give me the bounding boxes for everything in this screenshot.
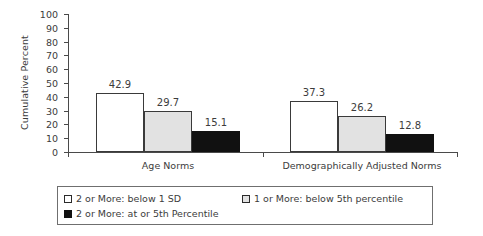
y-tick-label-10: 10: [32, 133, 58, 144]
bar-value-age-norms-series-1: 42.9: [109, 79, 131, 90]
legend-item-1-or-more-below-5th-percentile: 1 or More: below 5th percentile: [242, 193, 403, 204]
legend-swatch-black-square-icon: [64, 210, 72, 218]
y-tick-label-40: 40: [32, 91, 58, 102]
y-tick-label-20: 20: [32, 119, 58, 130]
y-tick-label-100: 100: [32, 9, 58, 20]
x-tick-middle: [263, 152, 264, 157]
y-tick-60: 60: [64, 69, 68, 70]
legend-label-3: 2 or More: at or 5th Percentile: [76, 208, 219, 219]
legend-item-2-or-more-below-1-sd: 2 or More: below 1 SD: [64, 193, 181, 204]
legend-row-2: 2 or More: at or 5th Percentile: [64, 206, 432, 221]
y-tick-100: 100: [64, 14, 68, 15]
bar-demographically-adjusted-norms-2-or-more-below-1-sd: [290, 101, 338, 153]
bar-demographically-adjusted-norms-1-or-more-below-5th-percentile: [338, 116, 386, 152]
y-tick-70: 70: [64, 55, 68, 56]
category-label-demographically-adjusted-norms: Demographically Adjusted Norms: [282, 160, 441, 171]
legend: 2 or More: below 1 SD 1 or More: below 5…: [57, 186, 433, 225]
y-tick-label-80: 80: [32, 36, 58, 47]
y-axis-line: [68, 14, 69, 153]
x-tick-start: [68, 152, 69, 157]
bar-value-age-norms-series-3: 15.1: [205, 117, 227, 128]
y-tick-50: 50: [64, 83, 68, 84]
legend-label-2: 1 or More: below 5th percentile: [254, 193, 403, 204]
y-tick-label-30: 30: [32, 105, 58, 116]
y-tick-90: 90: [64, 28, 68, 29]
y-tick-10: 10: [64, 138, 68, 139]
plot-area: 100 90 80 70 60 50 40 30 20 10 0 42.9 29…: [68, 14, 458, 152]
y-tick-label-0: 0: [32, 147, 58, 158]
y-tick-20: 20: [64, 124, 68, 125]
bar-value-demographically-adjusted-norms-series-1: 37.3: [303, 87, 325, 98]
x-tick-end: [457, 152, 458, 157]
bar-value-age-norms-series-2: 29.7: [157, 97, 179, 108]
legend-swatch-gray-square-icon: [242, 195, 250, 203]
bar-age-norms-2-or-more-at-or-5th-percentile: [192, 131, 240, 152]
legend-swatch-white-square-icon: [64, 195, 72, 203]
bar-age-norms-1-or-more-below-5th-percentile: [144, 111, 192, 152]
y-tick-label-50: 50: [32, 78, 58, 89]
y-tick-label-70: 70: [32, 50, 58, 61]
bar-value-demographically-adjusted-norms-series-2: 26.2: [351, 102, 373, 113]
bar-value-demographically-adjusted-norms-series-3: 12.8: [399, 120, 421, 131]
y-tick-40: 40: [64, 97, 68, 98]
legend-item-2-or-more-at-or-5th-percentile: 2 or More: at or 5th Percentile: [64, 208, 219, 219]
y-tick-label-90: 90: [32, 22, 58, 33]
y-tick-label-60: 60: [32, 64, 58, 75]
y-tick-30: 30: [64, 111, 68, 112]
bar-age-norms-2-or-more-below-1-sd: [96, 93, 144, 152]
y-tick-80: 80: [64, 42, 68, 43]
category-label-age-norms: Age Norms: [142, 160, 194, 171]
legend-label-1: 2 or More: below 1 SD: [76, 193, 181, 204]
bar-demographically-adjusted-norms-2-or-more-at-or-5th-percentile: [386, 134, 434, 152]
y-axis-title: Cumulative Percent: [19, 18, 30, 148]
legend-row-1: 2 or More: below 1 SD 1 or More: below 5…: [64, 191, 432, 206]
bar-chart: Cumulative Percent 100 90 80 70 60 50 40…: [0, 0, 483, 236]
